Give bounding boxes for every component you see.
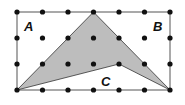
grid-dot	[40, 61, 45, 66]
label-c: C	[101, 74, 111, 89]
grid-dot	[142, 35, 147, 40]
grid-dot	[167, 35, 172, 40]
grid-dot	[91, 87, 96, 92]
grid-dot	[167, 87, 172, 92]
grid-dot	[116, 87, 121, 92]
grid-dot	[142, 61, 147, 66]
grid-dot	[142, 9, 147, 14]
grid-dot	[167, 61, 172, 66]
grid-dot	[116, 35, 121, 40]
grid-dot	[14, 35, 19, 40]
grid-dot	[65, 35, 70, 40]
grid-dot	[167, 9, 172, 14]
grid-dot	[14, 9, 19, 14]
label-a: A	[23, 19, 33, 34]
grid-dot	[14, 87, 19, 92]
grid-figure: A B C	[0, 0, 185, 105]
grid-dot	[14, 61, 19, 66]
shaded-region	[17, 12, 170, 90]
grid-dot	[91, 61, 96, 66]
grid-dot	[65, 9, 70, 14]
grid-dot	[142, 87, 147, 92]
grid-dot	[65, 87, 70, 92]
grid-dot	[40, 35, 45, 40]
grid-dot	[116, 61, 121, 66]
grid-dot	[40, 9, 45, 14]
grid-dot	[91, 35, 96, 40]
grid-dot	[116, 9, 121, 14]
grid-dot	[40, 87, 45, 92]
grid-dot	[91, 9, 96, 14]
grid-dot	[65, 61, 70, 66]
label-b: B	[153, 19, 162, 34]
